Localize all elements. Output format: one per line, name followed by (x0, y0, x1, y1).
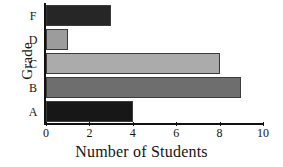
x-tick-label-8: 8 (208, 127, 232, 141)
x-tick-label-10: 10 (251, 127, 275, 141)
x-axis-title: Number of Students (0, 143, 283, 161)
y-tick-label-a: A (24, 106, 42, 118)
plot-area (44, 3, 263, 123)
x-axis-tick-labels: 0246810 (44, 127, 265, 143)
y-tick-label-d: D (24, 34, 42, 46)
bar-b (46, 77, 241, 98)
bar-f (46, 5, 111, 26)
y-tick-label-f: F (24, 10, 42, 22)
y-tick-label-c: C (24, 58, 42, 70)
y-tick-label-b: B (24, 82, 42, 94)
x-tick-label-0: 0 (34, 127, 58, 141)
bar-c (46, 53, 220, 74)
y-axis-tick-labels: FDCBA (24, 4, 42, 123)
x-tick-label-2: 2 (77, 127, 101, 141)
bar-a (46, 101, 133, 122)
x-tick-label-6: 6 (164, 127, 188, 141)
bar-series (46, 3, 263, 123)
x-tick-label-4: 4 (121, 127, 145, 141)
bar-d (46, 29, 68, 50)
bar-chart: Grade FDCBA 0246810 Number of Students (0, 0, 283, 167)
